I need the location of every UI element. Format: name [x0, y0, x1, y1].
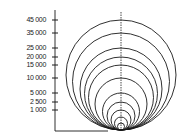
y-tick-label: 20 000 [26, 53, 46, 60]
y-tick-label: 45 000 [26, 16, 46, 23]
y-tick-label: 2 500 [30, 98, 46, 105]
y-tick-label: 5 000 [30, 89, 46, 96]
y-tick-label: 1 000 [30, 106, 46, 113]
y-tick-label: 15 000 [26, 61, 46, 68]
y-tick-label: 35 000 [26, 29, 46, 36]
circle-inner-10 [118, 123, 125, 130]
y-tick-label: 25 000 [26, 44, 46, 51]
y-tick-label: 10 000 [26, 74, 46, 81]
